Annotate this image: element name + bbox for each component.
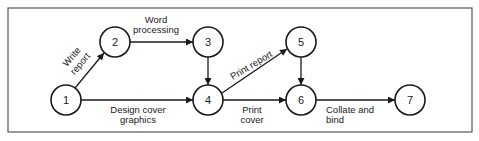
edge-label-collate-bind-line2: bind [326,114,344,125]
edge-label-print-report: Print report [228,48,274,82]
edge-label-print-cover-line2: cover [240,114,263,125]
node-1-label: 1 [63,94,69,106]
node-4-label: 4 [205,94,211,106]
network-diagram: Write report Word processing Design cove… [0,0,479,141]
node-7-label: 7 [407,94,413,106]
node-7: 7 [395,85,425,115]
node-2: 2 [100,27,130,57]
node-4: 4 [193,85,223,115]
node-2-label: 2 [112,36,118,48]
edge-label-design-cover-line2: graphics [120,114,156,125]
node-6: 6 [286,85,316,115]
edge-label-word-processing-line2: processing [133,24,179,35]
node-6-label: 6 [298,94,304,106]
node-5: 5 [286,27,316,57]
node-3: 3 [193,27,223,57]
node-5-label: 5 [298,36,304,48]
node-3-label: 3 [205,36,211,48]
node-1: 1 [51,85,81,115]
